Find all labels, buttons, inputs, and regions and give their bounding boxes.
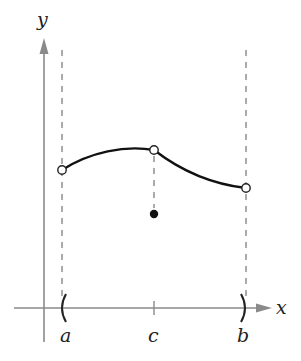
label-b: b — [237, 324, 249, 346]
x-axis-label: x — [276, 296, 287, 318]
label-c: c — [148, 324, 159, 346]
x-axis — [14, 304, 272, 313]
limit-diagram: y x a c b — [0, 0, 301, 361]
y-axis-arrow-icon — [40, 38, 49, 54]
y-axis — [40, 38, 49, 342]
open-circle-b — [242, 184, 250, 192]
y-axis-label: y — [36, 8, 48, 30]
x-axis-arrow-icon — [256, 304, 272, 313]
open-circle-c — [150, 146, 158, 154]
label-a: a — [60, 324, 71, 346]
open-circle-a — [58, 166, 66, 174]
filled-point-c — [150, 210, 158, 218]
